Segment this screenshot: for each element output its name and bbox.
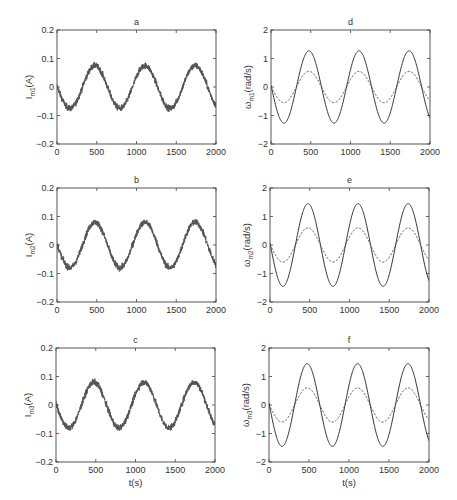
y-tick-label: 0.2 (41, 183, 54, 193)
x-tick-label: 2000 (419, 465, 439, 475)
y-tick-label: 0 (49, 240, 54, 250)
y-axis-label: ωm3(rad/s) (240, 383, 253, 427)
x-tick-label: 500 (303, 147, 318, 157)
x-tick-label: 0 (268, 147, 273, 157)
y-tick-label: 2 (263, 25, 268, 35)
x-tick-label: 0 (266, 465, 271, 475)
panel-title: a (134, 17, 139, 27)
y-tick-label: −2 (257, 297, 267, 307)
x-tick-label: 500 (88, 465, 103, 475)
x-tick-label: 500 (89, 147, 104, 157)
y-tick-label: −0.2 (36, 139, 54, 149)
panel-title: f (348, 335, 351, 345)
y-axis-label: Im3(A) (22, 393, 35, 417)
x-tick-label: 2000 (420, 147, 440, 157)
series-I_m3-line (56, 379, 215, 431)
figure-canvas: a Im1(A) 0500100015002000−0.2−0.100.10.2… (0, 0, 457, 500)
x-tick-label: 1500 (166, 147, 186, 157)
y-tick-label: 0 (48, 400, 53, 410)
axes-frame (57, 30, 216, 144)
panel-b: b Im2(A) 0500100015002000−0.2−0.100.10.2 (23, 175, 226, 315)
x-tick-label: 500 (89, 305, 104, 315)
series-I_m2-line (57, 219, 216, 272)
x-axis-label: t(s) (342, 477, 356, 488)
y-tick-label: 2 (261, 343, 266, 353)
y-tick-label: −0.2 (36, 297, 54, 307)
y-tick-label: −0.1 (36, 269, 54, 279)
y-tick-label: −1 (257, 269, 267, 279)
y-tick-label: 1 (261, 372, 266, 382)
y-tick-label: 0.1 (41, 212, 54, 222)
y-tick-label: 1 (262, 212, 267, 222)
x-axis-label: t(s) (129, 477, 143, 488)
y-tick-label: −2 (256, 457, 266, 467)
x-tick-label: 2000 (419, 305, 439, 315)
axes-frame (269, 348, 429, 462)
panel-title: c (133, 335, 138, 345)
x-tick-label: 0 (54, 305, 59, 315)
x-tick-label: 2000 (205, 465, 225, 475)
y-tick-label: 0 (263, 82, 268, 92)
panel-f: f ωm3(rad/s) t(s) 0500100015002000−2−101… (240, 335, 439, 488)
panel-e: e ωm2(rad/s) 0500100015002000−2−1012 (241, 175, 439, 315)
series-solid-line (269, 364, 429, 447)
panel-d: d ωm1(rad/s) 0500100015002000−2−1012 (242, 17, 440, 157)
y-axis-label: ωm2(rad/s) (241, 223, 254, 267)
y-tick-label: 0 (262, 240, 267, 250)
series-dashed-line (270, 228, 429, 262)
series-I_m1-line (57, 62, 216, 112)
panel-c: c Im3(A) t(s) 0500100015002000−0.2−0.100… (22, 335, 225, 488)
y-tick-label: 0.2 (40, 343, 53, 353)
y-tick-label: 1 (263, 54, 268, 64)
panel-a: a Im1(A) 0500100015002000−0.2−0.100.10.2 (23, 17, 226, 157)
y-axis-label: ωm1(rad/s) (242, 65, 255, 109)
panel-title: d (348, 17, 353, 27)
axes-frame (56, 348, 215, 462)
y-tick-label: 0.2 (41, 25, 54, 35)
x-tick-label: 0 (54, 147, 59, 157)
x-tick-label: 1500 (379, 465, 399, 475)
axes-frame (271, 30, 430, 144)
x-tick-label: 1500 (379, 305, 399, 315)
series-dashed-line (271, 71, 430, 102)
x-tick-label: 1000 (126, 305, 146, 315)
x-tick-label: 500 (301, 465, 316, 475)
panel-title: b (134, 175, 139, 185)
x-tick-label: 1000 (126, 147, 146, 157)
series-solid-line (271, 51, 430, 123)
x-tick-label: 1000 (340, 147, 360, 157)
y-tick-label: 0.1 (40, 372, 53, 382)
axes-frame (57, 188, 216, 302)
series-solid-line (270, 204, 429, 287)
x-tick-label: 1000 (339, 305, 359, 315)
y-tick-label: 0 (49, 82, 54, 92)
y-tick-label: −2 (258, 139, 268, 149)
y-axis-label: Im2(A) (23, 233, 36, 257)
x-tick-label: 1000 (125, 465, 145, 475)
x-tick-label: 1000 (339, 465, 359, 475)
y-tick-label: −0.1 (36, 111, 54, 121)
x-tick-label: 2000 (206, 305, 226, 315)
y-tick-label: 2 (262, 183, 267, 193)
y-tick-label: −1 (258, 111, 268, 121)
x-tick-label: 500 (302, 305, 317, 315)
y-axis-label: Im1(A) (23, 75, 36, 99)
axes-frame (270, 188, 429, 302)
x-tick-label: 1500 (380, 147, 400, 157)
x-tick-label: 0 (267, 305, 272, 315)
panel-title: e (347, 175, 352, 185)
y-tick-label: −0.2 (35, 457, 53, 467)
x-tick-label: 1500 (165, 465, 185, 475)
y-tick-label: 0 (261, 400, 266, 410)
series-dashed-line (269, 388, 429, 422)
x-tick-label: 1500 (166, 305, 186, 315)
x-tick-label: 0 (53, 465, 58, 475)
y-tick-label: −1 (256, 429, 266, 439)
y-tick-label: −0.1 (35, 429, 53, 439)
x-tick-label: 2000 (206, 147, 226, 157)
y-tick-label: 0.1 (41, 54, 54, 64)
